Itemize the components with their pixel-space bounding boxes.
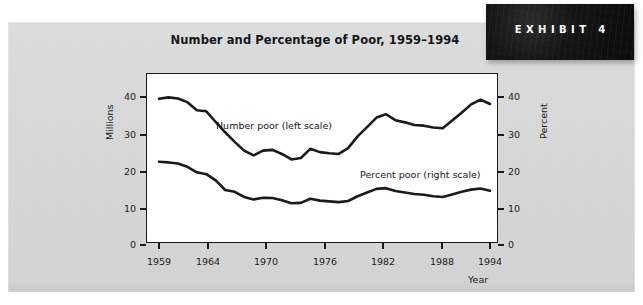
plot-svg [147,74,497,242]
chart-title: Number and Percentage of Poor, 1959–1994 [150,33,480,47]
xtick-mark-1994 [489,243,491,249]
xtick-mark-1976 [324,243,326,249]
ytick-label-right-10: 10 [508,203,530,214]
x-axis-title: Year [468,274,488,285]
xtick-mark-1970 [265,243,267,249]
y-axis-title-left: Millions [104,104,115,140]
xtick-label-1959: 1959 [139,256,179,267]
ytick-label-right-30: 30 [508,129,530,140]
ytick-mark-right-30 [498,134,504,136]
ytick-label-right-20: 20 [508,166,530,177]
xtick-mark-1982 [382,243,384,249]
ytick-mark-left-10 [140,208,146,210]
ytick-label-left-10: 10 [114,203,136,214]
ytick-mark-left-30 [140,134,146,136]
annotation-percent-poor: Percent poor (right scale) [360,169,481,180]
ytick-mark-right-10 [498,208,504,210]
exhibit-page: Number and Percentage of Poor, 1959–1994… [0,0,643,305]
plot-area [146,73,498,243]
annotation-number-poor: Number poor (left scale) [216,120,332,131]
xtick-mark-1988 [441,243,443,249]
ytick-mark-right-40 [498,96,504,98]
ytick-mark-left-40 [140,96,146,98]
xtick-label-1994: 1994 [470,256,510,267]
xtick-label-1970: 1970 [246,256,286,267]
exhibit-label: EXHIBIT 4 [486,24,634,35]
exhibit-badge: EXHIBIT 4 [486,4,634,60]
ytick-label-left-20: 20 [114,166,136,177]
xtick-mark-1964 [207,243,209,249]
ytick-label-right-40: 40 [508,91,530,102]
ytick-mark-left-0 [140,244,146,246]
xtick-label-1982: 1982 [363,256,403,267]
xtick-label-1964: 1964 [188,256,228,267]
xtick-label-1976: 1976 [305,256,345,267]
ytick-mark-right-20 [498,171,504,173]
xtick-label-1988: 1988 [422,256,462,267]
y-axis-title-right: Percent [538,103,549,139]
ytick-label-right-0: 0 [508,239,530,250]
ytick-mark-left-20 [140,171,146,173]
ytick-label-left-40: 40 [114,91,136,102]
series-percent-poor-line [159,162,490,204]
ytick-mark-right-0 [498,244,504,246]
ytick-label-left-30: 30 [114,129,136,140]
ytick-label-left-0: 0 [114,239,136,250]
xtick-mark-1959 [158,243,160,249]
